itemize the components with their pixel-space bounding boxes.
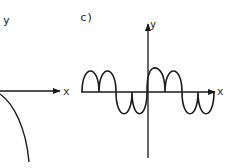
panel-c xyxy=(81,24,215,158)
panel-c-label: c) xyxy=(80,12,93,23)
left-x-label: x xyxy=(63,86,70,97)
left-y-label: y xyxy=(3,15,10,26)
left-curve xyxy=(0,94,29,162)
c-y-label: y xyxy=(150,20,156,30)
left-panel xyxy=(0,91,60,162)
diagram-canvas xyxy=(0,0,232,168)
c-x-label: x xyxy=(217,86,224,97)
